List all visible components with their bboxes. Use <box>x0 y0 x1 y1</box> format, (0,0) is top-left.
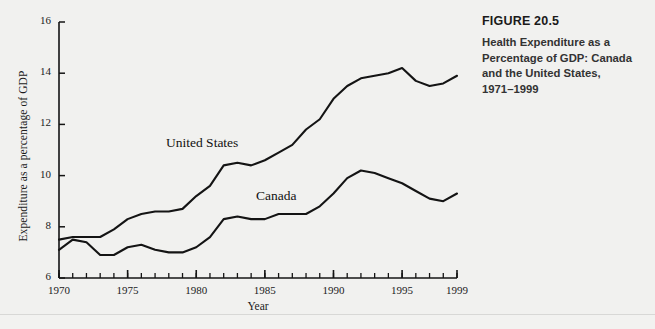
line-chart-svg <box>0 0 470 315</box>
figure-container: 6810121416 1970197519801985199019951999 … <box>0 0 655 329</box>
x-tick-label: 1999 <box>432 284 482 296</box>
caption-line-1: Health Expenditure as a <box>482 35 647 51</box>
y-axis-title: Expenditure as a percentage of GDP <box>17 56 29 256</box>
x-axis-major-ticks <box>59 270 457 278</box>
figure-number: FIGURE 20.5 <box>482 14 647 28</box>
x-tick-label: 1985 <box>240 284 290 296</box>
figure-caption: FIGURE 20.5 Health Expenditure as a Perc… <box>482 14 647 97</box>
series-line-canada <box>59 170 457 254</box>
series-line-united-states <box>59 68 457 240</box>
x-tick-label: 1990 <box>308 284 358 296</box>
caption-line-2: Percentage of GDP: Canada <box>482 51 647 67</box>
chart-plot-area: 6810121416 1970197519801985199019951999 … <box>0 0 470 315</box>
x-tick-label: 1975 <box>103 284 153 296</box>
figure-panel: 6810121416 1970197519801985199019951999 … <box>0 0 655 315</box>
series-label-united-states: United States <box>166 135 238 151</box>
caption-line-3: and the United States, <box>482 66 647 82</box>
figure-caption-text: Health Expenditure as a Percentage of GD… <box>482 35 647 97</box>
x-tick-label: 1970 <box>34 284 84 296</box>
axes-group <box>59 22 457 278</box>
y-tick-label: 6 <box>25 270 51 282</box>
y-tick-label: 16 <box>25 14 51 26</box>
x-axis-title: Year <box>59 300 457 312</box>
series-label-canada: Canada <box>256 188 296 204</box>
x-tick-label: 1980 <box>171 284 221 296</box>
x-tick-label: 1995 <box>377 284 427 296</box>
caption-line-4: 1971–1999 <box>482 82 647 98</box>
